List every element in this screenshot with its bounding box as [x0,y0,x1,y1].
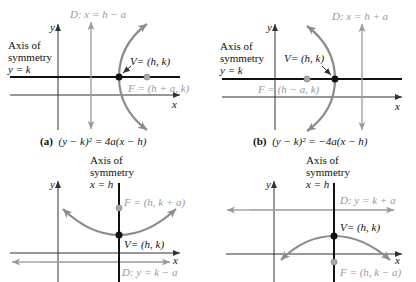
panel-a: x y Axis of symmetry y = k D: x = h − a … [7,8,190,148]
vertex-point [332,76,339,83]
symmetry-label-line2: symmetry [306,166,350,178]
symmetry-label-line3: x = h [89,178,114,190]
directrix-label: D: x = h − a [69,8,127,20]
directrix-label: D: x = h + a [331,10,389,22]
focus-label: F = (h, k − a) [339,266,402,279]
y-axis-label: y [49,178,55,190]
parabola-left-branch [63,209,119,235]
symmetry-label-line1: Axis of [8,39,41,51]
vertex-point [331,233,338,240]
panel-d: x y D: y = k + a Axis of symmetry x = h … [226,154,402,282]
focus-point [304,76,310,82]
parabola-right-branch [334,236,390,260]
y-axis-label: y [49,21,55,33]
focus-point [331,259,337,265]
panel-b: x y Axis of symmetry y = k D: x = h + a … [219,10,402,148]
vertex-point [116,74,123,81]
x-axis-label: x [394,254,400,266]
y-axis-label: y [265,178,271,190]
symmetry-label-line1: Axis of [220,40,253,52]
caption-label: (a) [40,135,53,148]
vertex-pointer [322,66,331,75]
parabola-right-branch [119,209,176,235]
symmetry-label-line3: y = k [219,64,244,76]
caption-equation: (y − k)² = 4a(x − h) [59,135,147,148]
vertex-pointer [123,66,131,73]
vertex-label: V= (h, k) [284,52,324,65]
symmetry-label-line1: Axis of [90,154,123,166]
focus-label: F = (h, k + a) [123,196,186,209]
x-axis-label: x [171,98,177,110]
parabola-figure: x y Axis of symmetry y = k D: x = h − a … [0,0,416,282]
symmetry-label-line3: y = k [7,63,32,75]
y-axis-label: y [266,21,272,33]
vertex-label: V= (h, k) [130,55,170,68]
directrix-label: D: y = k − a [121,266,178,278]
panel-c: x y D: y = k − a Axis of symmetry x = h … [10,154,186,282]
parabola-upper-branch [119,24,147,77]
symmetry-label-line3: x = h [305,178,330,190]
focus-label: F = (h + a, k) [127,82,190,95]
focus-point [144,74,150,80]
symmetry-label-line2: symmetry [8,51,52,63]
vertex-label: V= (h, k) [124,238,164,251]
caption-b: (b) (y − k)² = −4a(x − h) [253,135,368,148]
focus-label: F = (h − a, k) [257,83,320,96]
vertex-point [116,232,123,239]
caption-label: (b) [253,135,267,148]
vertex-label: V= (h, k) [340,221,380,234]
caption-equation: (y − k)² = −4a(x − h) [272,135,368,148]
symmetry-label-line2: symmetry [90,166,134,178]
parabola-left-branch [281,236,334,260]
caption-a: (a) (y − k)² = 4a(x − h) [40,135,147,148]
directrix-label: D: y = k + a [339,194,396,206]
symmetry-label-line2: symmetry [220,52,264,64]
focus-point [116,205,122,211]
x-axis-label: x [172,254,178,266]
symmetry-label-line1: Axis of [306,154,339,166]
x-axis-label: x [394,100,400,112]
